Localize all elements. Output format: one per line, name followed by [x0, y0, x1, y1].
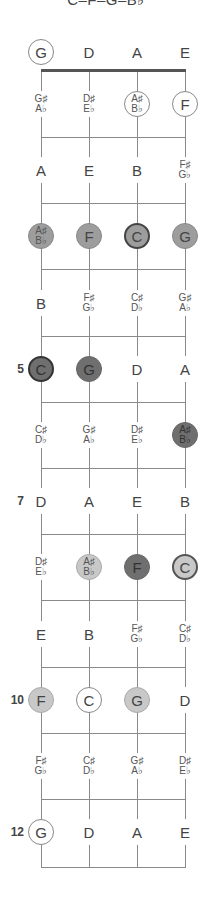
- note-label-flat: G♭: [35, 766, 48, 776]
- note-marker: B: [76, 621, 102, 647]
- note-label-flat: A♭: [83, 435, 95, 445]
- note-marker: D: [76, 819, 102, 845]
- note-marker: F: [28, 687, 54, 713]
- note-marker: A: [124, 819, 150, 845]
- fret-line: [41, 534, 186, 535]
- note-marker: F: [124, 554, 150, 580]
- note-label-flat: D♭: [179, 634, 191, 644]
- note-label-flat: D♭: [35, 435, 47, 445]
- note-label: F: [84, 229, 93, 244]
- note-marker: B: [124, 157, 150, 183]
- note-label-flat: D♭: [131, 303, 143, 313]
- note-label: B: [132, 163, 142, 178]
- note-marker: E: [172, 39, 198, 65]
- fret-line: [41, 799, 186, 800]
- note-label: F: [36, 693, 45, 708]
- note-label: G: [179, 229, 191, 244]
- fret-line: [41, 600, 186, 601]
- note-marker: A♯B♭: [124, 91, 150, 117]
- note-label: B: [84, 627, 94, 642]
- note-marker: G: [28, 39, 54, 65]
- note-label: E: [132, 494, 142, 509]
- note-marker: C: [76, 687, 102, 713]
- note-label: G: [35, 45, 47, 60]
- note-label: D: [36, 494, 47, 509]
- note-label-flat: A♭: [35, 104, 47, 114]
- note-label: A: [180, 362, 190, 377]
- note-marker: A: [172, 356, 198, 382]
- note-label: D: [132, 362, 143, 377]
- fret-number: 5: [6, 362, 24, 376]
- note-label: E: [180, 825, 190, 840]
- note-marker: G: [76, 356, 102, 382]
- note-marker: C♯D♭: [172, 621, 198, 647]
- note-marker: G: [124, 687, 150, 713]
- note-label: A: [132, 825, 142, 840]
- note-marker: G♯A♭: [172, 290, 198, 316]
- note-label-flat: B♭: [35, 236, 47, 246]
- note-label-flat: D♭: [83, 766, 95, 776]
- fret-line: [41, 667, 186, 668]
- note-label-flat: A♭: [131, 766, 143, 776]
- note-marker: G♯A♭: [124, 753, 150, 779]
- note-marker: D: [76, 39, 102, 65]
- note-marker: D♯E♭: [172, 753, 198, 779]
- note-label-flat: E♭: [179, 766, 191, 776]
- note-label: G: [83, 362, 95, 377]
- note-marker: B: [172, 488, 198, 514]
- note-marker: G♯A♭: [28, 91, 54, 117]
- note-marker: C: [172, 554, 198, 580]
- fret-line: [41, 137, 186, 138]
- note-label: A: [36, 163, 46, 178]
- fret-number: 12: [6, 825, 24, 839]
- note-label: G: [35, 825, 47, 840]
- note-label: F: [180, 97, 189, 112]
- note-label: C: [132, 229, 143, 244]
- note-label-flat: E♭: [131, 435, 143, 445]
- note-marker: C: [124, 223, 150, 249]
- note-marker: G: [28, 819, 54, 845]
- note-label: A: [84, 494, 94, 509]
- note-label-flat: G♭: [179, 170, 192, 180]
- note-label: C: [84, 693, 95, 708]
- note-marker: A: [124, 39, 150, 65]
- note-label: E: [36, 627, 46, 642]
- note-marker: E: [76, 157, 102, 183]
- note-label-flat: G♭: [131, 634, 144, 644]
- note-label: F: [132, 560, 141, 575]
- note-marker: F: [172, 91, 198, 117]
- note-marker: E: [172, 819, 198, 845]
- note-marker: D♯E♭: [124, 422, 150, 448]
- note-marker: C♯D♭: [76, 753, 102, 779]
- note-label-flat: G♭: [83, 303, 96, 313]
- note-marker: B: [28, 290, 54, 316]
- note-marker: A: [28, 157, 54, 183]
- fret-number: 7: [6, 494, 24, 508]
- fret-line: [41, 733, 186, 734]
- note-marker: C♯D♭: [28, 422, 54, 448]
- note-marker: D: [124, 356, 150, 382]
- fret-line: [41, 203, 186, 204]
- note-marker: D: [28, 488, 54, 514]
- note-label: E: [180, 45, 190, 60]
- note-marker: G♯A♭: [76, 422, 102, 448]
- note-marker: A♯B♭: [28, 223, 54, 249]
- fret-line: [41, 269, 186, 270]
- note-label: D: [84, 45, 95, 60]
- note-marker: F♯G♭: [76, 290, 102, 316]
- note-marker: F: [76, 223, 102, 249]
- note-marker: C♯D♭: [124, 290, 150, 316]
- note-marker: G: [172, 223, 198, 249]
- note-marker: D: [172, 687, 198, 713]
- note-marker: A: [76, 488, 102, 514]
- note-marker: A♯B♭: [172, 422, 198, 448]
- note-label: D: [180, 693, 191, 708]
- note-marker: F♯G♭: [124, 621, 150, 647]
- fret-line: [41, 468, 186, 469]
- fret-line: [41, 402, 186, 403]
- note-label: B: [180, 494, 190, 509]
- note-marker: E: [124, 488, 150, 514]
- note-marker: D♯E♭: [28, 554, 54, 580]
- nut: [41, 69, 186, 72]
- note-label-flat: B♭: [83, 567, 95, 577]
